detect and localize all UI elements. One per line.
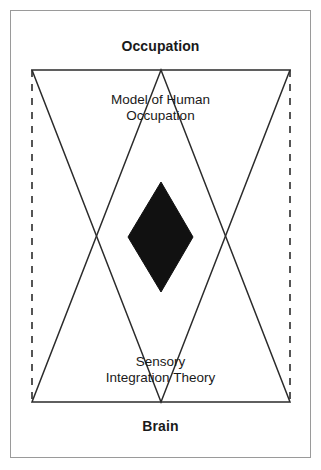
diagram-figure: Occupation Model of Human Occupation Sen…	[0, 0, 321, 470]
lower-model-line-1: Sensory	[0, 354, 321, 370]
lower-model-line-2: Integration Theory	[0, 370, 321, 386]
bottom-heading-text: Brain	[0, 418, 321, 435]
diagram-canvas	[0, 0, 321, 470]
overlap-diamond-shape	[128, 182, 193, 292]
upper-model-line-2: Occupation	[0, 108, 321, 124]
upper-model-label: Model of Human Occupation	[0, 92, 321, 124]
upper-model-line-1: Model of Human	[0, 92, 321, 108]
top-heading-occupation: Occupation	[0, 38, 321, 55]
top-heading-text: Occupation	[0, 38, 321, 55]
lower-model-label: Sensory Integration Theory	[0, 354, 321, 386]
bottom-heading-brain: Brain	[0, 418, 321, 435]
